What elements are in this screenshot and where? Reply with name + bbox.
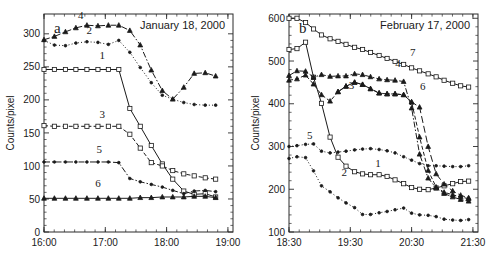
data-point-20 [451, 219, 454, 222]
data-point-17 [426, 72, 430, 76]
panel-letter-a: a [54, 20, 61, 36]
data-point-3 [74, 124, 78, 128]
x-tick-label: 18:30 [276, 237, 301, 248]
y-tick-label: 300 [268, 141, 285, 152]
data-point-14 [402, 182, 406, 186]
data-point-6 [107, 43, 110, 46]
panel-title: February 17, 2000 [380, 19, 470, 31]
data-point-3 [75, 161, 78, 164]
data-point-9 [139, 180, 142, 183]
data-point-2 [303, 40, 307, 44]
data-point-6 [337, 151, 340, 154]
data-point-5 [96, 67, 100, 71]
y-tick-label: 200 [23, 94, 40, 105]
data-point-0 [287, 16, 291, 20]
data-point-4 [319, 33, 323, 37]
data-point-6 [337, 196, 340, 199]
data-point-10 [368, 173, 372, 177]
data-point-15 [203, 176, 207, 180]
x-tick-label: 21:30 [460, 237, 485, 248]
data-point-11 [426, 144, 431, 149]
data-point-16 [466, 195, 471, 200]
data-point-15 [204, 104, 207, 107]
data-point-6 [336, 39, 340, 43]
data-point-17 [427, 164, 430, 167]
data-point-1 [52, 67, 56, 71]
data-point-4 [85, 124, 89, 128]
data-point-15 [410, 66, 414, 70]
data-point-9 [361, 213, 364, 216]
series-line-6 [338, 82, 469, 197]
data-point-2 [64, 44, 67, 47]
series-1 [287, 40, 471, 192]
data-point-14 [192, 71, 197, 76]
data-point-4 [320, 184, 323, 187]
data-point-11 [377, 173, 381, 177]
data-point-10 [369, 147, 372, 150]
data-point-5 [329, 190, 332, 193]
data-point-7 [117, 161, 120, 164]
y-tick-label: 250 [23, 61, 40, 72]
data-point-13 [393, 59, 397, 63]
series-2 [43, 39, 217, 106]
curve-label-3: 3 [99, 108, 105, 120]
data-point-8 [128, 51, 131, 54]
y-tick-label: 500 [268, 56, 285, 67]
data-point-14 [193, 103, 196, 106]
data-point-4 [86, 161, 89, 164]
data-point-7 [344, 42, 348, 46]
data-point-6 [107, 161, 110, 164]
data-point-16 [417, 135, 422, 140]
data-point-8 [353, 206, 356, 209]
data-point-1 [53, 161, 56, 164]
data-point-6 [106, 23, 111, 28]
series-6 [42, 194, 218, 200]
data-point-16 [214, 104, 217, 107]
data-point-4 [319, 72, 324, 77]
x-tick-label: 16:00 [31, 237, 56, 248]
data-point-7 [345, 202, 348, 205]
x-tick-label: 19:00 [215, 237, 240, 248]
data-point-10 [368, 50, 372, 54]
series-5 [43, 161, 217, 195]
data-point-15 [410, 185, 414, 189]
data-point-7 [116, 23, 121, 28]
data-point-15 [410, 159, 413, 162]
data-point-11 [378, 148, 381, 151]
data-point-8 [128, 177, 131, 180]
curve-label-7: 7 [410, 46, 416, 58]
data-point-6 [336, 155, 340, 159]
curve-label-1: 1 [99, 49, 105, 61]
data-point-5 [97, 161, 100, 164]
data-point-0 [288, 157, 291, 160]
data-point-12 [171, 168, 175, 172]
data-point-16 [418, 214, 421, 217]
plot-frame [289, 14, 478, 232]
data-point-13 [181, 85, 186, 90]
data-point-19 [443, 165, 446, 168]
data-point-0 [42, 67, 46, 71]
data-point-14 [193, 190, 196, 193]
data-point-11 [160, 164, 164, 168]
data-point-12 [434, 171, 439, 176]
data-point-5 [96, 124, 100, 128]
y-tick-label: 300 [23, 28, 40, 39]
data-point-22 [467, 179, 471, 183]
data-point-11 [161, 186, 164, 189]
data-point-14 [402, 155, 405, 158]
data-point-8 [352, 170, 356, 174]
data-point-15 [410, 212, 413, 215]
data-point-7 [345, 150, 348, 153]
data-point-3 [312, 143, 315, 146]
data-point-16 [213, 73, 218, 78]
data-point-16 [214, 190, 217, 193]
data-point-1 [296, 144, 299, 147]
data-point-2 [303, 20, 307, 24]
y-axis-title: Counts/pixel [5, 95, 16, 150]
data-point-9 [139, 66, 142, 69]
data-point-22 [467, 85, 471, 89]
y-tick-label: 400 [268, 98, 285, 109]
data-point-1 [295, 68, 300, 73]
series-line-4 [44, 25, 216, 99]
data-point-2 [64, 161, 67, 164]
